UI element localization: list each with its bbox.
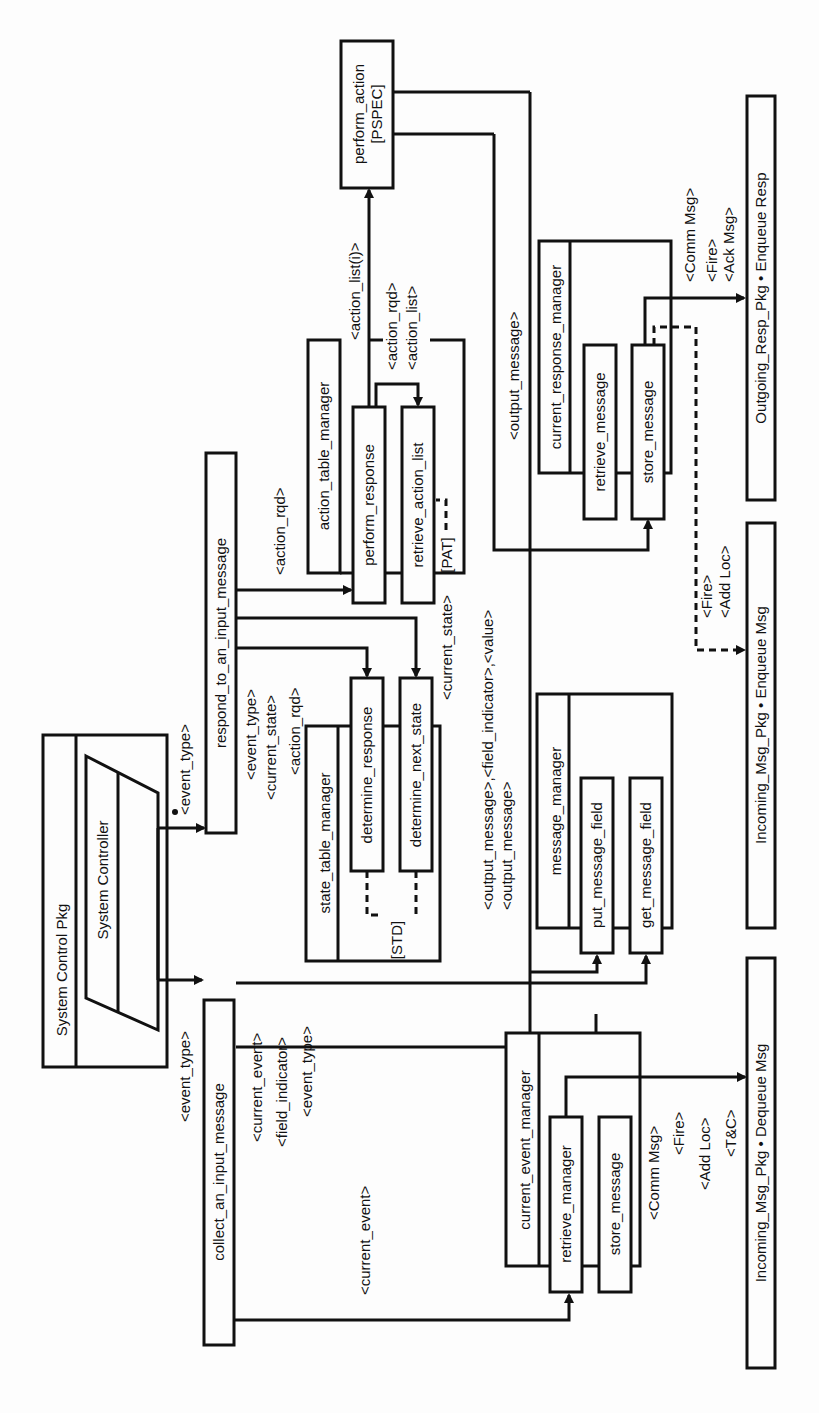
system-controller-label: System Controller <box>94 820 111 939</box>
incoming-dequeue-label: Incoming_Msg_Pkg • Dequeue Msg <box>752 1044 769 1283</box>
outgoing-resp-label: Outgoing_Resp_Pkg • Enqueue Resp <box>752 172 769 423</box>
module-cem-store-message[interactable]: store_message <box>599 1117 631 1292</box>
couple-put-fields: <output_message>,<field_indicator>,<valu… <box>479 610 496 910</box>
module-cem-retrieve-manager[interactable]: retrieve_manager <box>550 1117 582 1292</box>
couple-resp-ack-msg: <Ack Msg> <box>720 207 737 282</box>
couple-deq-fire: <Fire> <box>670 1111 687 1155</box>
structure-chart: System Control Pkg System Controller res… <box>0 0 819 1413</box>
incoming-msg-dequeue[interactable]: Incoming_Msg_Pkg • Dequeue Msg <box>747 958 775 1368</box>
cem-store-message-label: store_message <box>606 1153 623 1256</box>
crm-store-message-label: store_message <box>639 381 656 484</box>
incoming-enqueue-label: Incoming_Msg_Pkg • Enqueue Msg <box>752 606 769 844</box>
module-determine-next-state[interactable]: determine_next_state <box>400 678 432 871</box>
determine-response-label: determine_response <box>358 707 375 844</box>
couple-collect-field-indicator: <field_indicator> <box>273 1037 290 1147</box>
module-respond-to-input[interactable]: respond_to_an_input_message <box>206 453 236 833</box>
pat-tag: [PAT] <box>438 537 455 572</box>
couple-enq-fire: <Fire> <box>698 574 715 618</box>
system-control-pkg[interactable]: System Control Pkg System Controller <box>43 735 167 1067</box>
pspec-tag: [PSPEC] <box>368 84 385 143</box>
determine-next-state-label: determine_next_state <box>407 703 424 847</box>
couple-action-list: <action_list> <box>403 286 420 370</box>
collect-label: collect_an_input_message <box>210 1083 227 1261</box>
couple-action-rqd-perform: <action_rqd> <box>271 487 288 575</box>
couple-std-event-type: <event_type> <box>242 689 259 780</box>
couple-enq-add-loc: <Add Loc> <box>716 545 733 618</box>
module-determine-response[interactable]: determine_response <box>351 678 383 871</box>
module-collect-input[interactable]: collect_an_input_message <box>204 1000 234 1345</box>
retrieve-action-list-label: retrieve_action_list <box>409 442 426 568</box>
perform-action-label: perform_action <box>350 64 367 164</box>
couple-event-type-collect: <event_type> <box>176 1031 193 1122</box>
package-title: System Control Pkg <box>53 904 70 1037</box>
module-retrieve-action-list[interactable]: retrieve_action_list [PAT] <box>402 407 455 603</box>
couple-store-output: <output_message> <box>505 311 522 440</box>
couple-action-rqd-retrieve: <action_rqd> <box>383 282 400 370</box>
module-crm-store-message[interactable]: store_message <box>632 345 664 519</box>
crm-retrieve-message-label: retrieve_message <box>591 372 608 491</box>
put-message-field-label: put_message_field <box>588 802 605 928</box>
module-crm-retrieve-message[interactable]: retrieve_message <box>584 345 616 519</box>
module-get-message-field[interactable]: get_message_field <box>630 778 662 953</box>
couple-get-output: <output_message> <box>498 781 515 910</box>
message-manager-label: message_manager <box>547 747 564 875</box>
perform-response-label: perform_response <box>360 444 377 566</box>
get-message-field-label: get_message_field <box>637 802 654 928</box>
state-table-manager-label: state_table_manager <box>316 773 333 914</box>
action-table-manager-label: action_table_manager <box>315 382 332 530</box>
cem-retrieve-manager-label: retrieve_manager <box>557 1145 574 1263</box>
couple-deq-tc: <T&C> <box>722 1109 739 1157</box>
couple-std-action-rqd: <action_rqd> <box>286 687 303 775</box>
couple-collect-current-event: <current_event> <box>248 1033 265 1142</box>
respond-label: respond_to_an_input_message <box>212 538 229 748</box>
outgoing-resp-enqueue[interactable]: Outgoing_Resp_Pkg • Enqueue Resp <box>747 96 775 500</box>
current-event-manager-label: current_event_manager <box>516 1070 533 1229</box>
couple-retrieve-current-event: <current_event> <box>356 1186 373 1295</box>
couple-std-current-state: <current_state> <box>262 695 279 800</box>
couple-action-list-i: <action_list(i)> <box>346 242 363 340</box>
module-perform-action[interactable]: perform_action [PSPEC] <box>341 41 393 188</box>
incoming-msg-enqueue[interactable]: Incoming_Msg_Pkg • Enqueue Msg <box>747 523 775 928</box>
module-perform-response[interactable]: perform_response <box>353 407 385 603</box>
couple-deq-comm-msg: <Comm Msg> <box>645 1126 662 1220</box>
couple-resp-comm-msg: <Comm Msg> <box>681 188 698 282</box>
couple-current-state: <current_state> <box>438 595 455 700</box>
module-put-message-field[interactable]: put_message_field <box>581 778 613 953</box>
couple-collect-event-type: <event_type> <box>298 1026 315 1117</box>
couple-deq-add-loc: <Add Loc> <box>696 1117 713 1190</box>
couple-resp-fire: <Fire> <box>703 238 720 282</box>
current-response-manager-label: current_response_manager <box>547 265 564 449</box>
couple-event-type-respond: <event_type> <box>176 724 193 815</box>
std-tag: [STD] <box>388 921 405 959</box>
